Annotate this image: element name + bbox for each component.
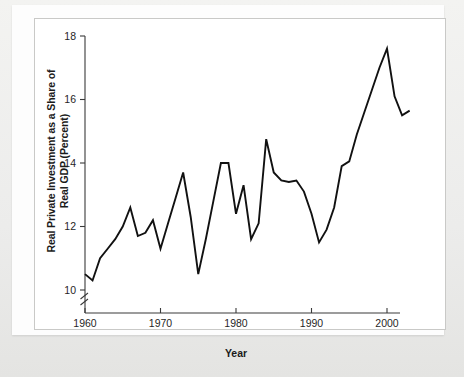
paper-sheet [12,5,444,335]
y-axis-title-line2: Real GDP (Percent) [58,114,70,208]
figure-frame [34,18,446,330]
y-axis-title: Real Private Investment as a Share of Re… [45,41,71,281]
x-axis-title: Year [85,347,387,359]
page-background: 1012141618 19601970198019902000 Real Pri… [0,0,464,377]
y-axis-title-line1: Real Private Investment as a Share of [45,69,57,252]
